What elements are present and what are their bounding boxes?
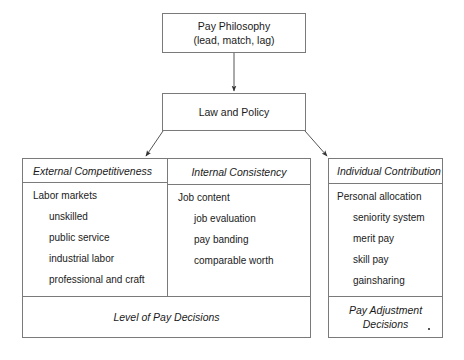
list-item: Labor markets [23,190,167,201]
pay-adjustment-line1: Pay Adjustment [349,303,422,317]
list-item: unskilled [23,211,167,222]
pay-adjustment-line2: Decisions [349,317,422,331]
pillar-individual-contribution: Individual Contribution Personal allocat… [328,158,443,338]
pay-philosophy-line2: (lead, match, lag) [193,33,274,47]
list-item: professional and craft [23,274,167,285]
pay-philosophy-line1: Pay Philosophy [198,19,270,33]
footer-pay-adjustment-decisions: Pay Adjustment Decisions [329,296,442,337]
arrow-policy-to-external [146,131,163,156]
pillar-individual-body: Personal allocation seniority system mer… [329,184,442,296]
list-item: seniority system [329,212,442,223]
pillar-individual-header: Individual Contribution [329,159,442,184]
node-pay-philosophy: Pay Philosophy (lead, match, lag) [162,13,306,53]
pillar-internal-header: Internal Consistency [168,159,310,185]
list-item: gainsharing [329,275,442,286]
list-item: merit pay [329,233,442,244]
list-item: public service [23,232,167,243]
list-item: industrial labor [23,253,167,264]
pay-model-diagram: Pay Philosophy (lead, match, lag) Law an… [0,0,464,360]
stray-mark [428,328,430,330]
list-item: skill pay [329,254,442,265]
list-item: pay banding [168,234,310,245]
list-item: job evaluation [168,213,310,224]
list-item: comparable worth [168,255,310,266]
footer-level-of-pay-decisions: Level of Pay Decisions [22,296,311,338]
arrow-policy-to-individual [305,131,327,156]
node-law-and-policy: Law and Policy [162,93,306,131]
list-item: Personal allocation [329,191,442,202]
law-and-policy-label: Law and Policy [199,105,270,119]
pillar-external-header: External Competitiveness [23,159,167,183]
list-item: Job content [168,192,310,203]
level-of-pay-label: Level of Pay Decisions [113,311,219,323]
